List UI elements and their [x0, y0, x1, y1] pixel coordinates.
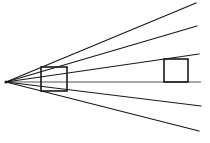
perspective-diagram — [0, 0, 210, 143]
ray-lower-outer — [6, 82, 199, 131]
ray-upper-inner — [6, 26, 197, 82]
ray-lower-inner — [6, 82, 201, 106]
vanishing-point-marker — [4, 80, 7, 83]
far-rectangle — [164, 59, 188, 82]
perspective-canvas — [0, 0, 210, 143]
ray-upper-outer — [6, 3, 196, 82]
